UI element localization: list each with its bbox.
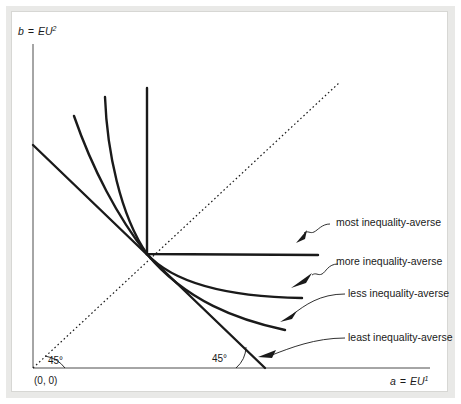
leader-line-least <box>272 338 345 355</box>
angle-label-left: 45° <box>48 355 63 366</box>
callout-least: least inequality-averse <box>258 331 453 358</box>
curve-less-inequality-averse <box>74 116 285 330</box>
axes-group <box>33 44 430 368</box>
arrowhead-less <box>280 311 297 322</box>
angle-label-right: 45° <box>212 353 227 364</box>
curve-most-inequality-averse <box>147 88 318 255</box>
y-axis-label: b=EU2 <box>18 25 57 37</box>
callout-most: most inequality-averse <box>296 216 441 243</box>
origin-label: (0, 0) <box>34 375 57 386</box>
callout-more: more inequality-averse <box>291 255 442 288</box>
curve-more-inequality-averse <box>105 97 302 298</box>
x-axis-label: a=EU1 <box>390 375 429 387</box>
label-more-inequality-averse: more inequality-averse <box>336 255 442 267</box>
label-less-inequality-averse: less inequality-averse <box>348 287 449 299</box>
arrowhead-most <box>296 230 307 243</box>
callout-less: less inequality-averse <box>280 287 449 322</box>
indifference-curve-chart: b=EU2 a=EU1 (0, 0) 45° 45° most inequali… <box>0 0 461 404</box>
arrowhead-more <box>291 273 312 288</box>
leader-line-most <box>304 224 330 233</box>
angle-arc-right <box>236 347 246 368</box>
figure-container: b=EU2 a=EU1 (0, 0) 45° 45° most inequali… <box>0 0 461 404</box>
label-most-inequality-averse: most inequality-averse <box>336 216 441 228</box>
leader-line-more <box>312 264 338 275</box>
arrowhead-least <box>258 350 276 358</box>
label-least-inequality-averse: least inequality-averse <box>348 331 453 343</box>
curve-least-inequality-averse <box>33 145 265 368</box>
equality-ray-dotted <box>33 82 340 368</box>
